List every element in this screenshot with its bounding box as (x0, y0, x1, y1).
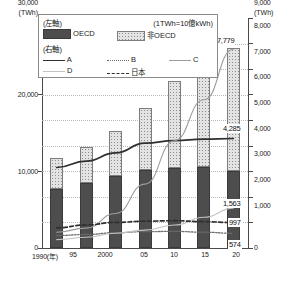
legend-item-c: C (169, 55, 199, 64)
chart-container: (TWh) (TWh) 30,000 20,000 10,000 0 9,000… (0, 0, 290, 281)
right-axis-unit: (TWh) (254, 9, 273, 16)
line-a-swatch-icon (43, 57, 65, 63)
x-axis-line (42, 248, 249, 249)
left-axis-tick (38, 248, 42, 249)
right-axis-tick (249, 43, 253, 44)
right-axis-tick (249, 171, 253, 172)
right-tick-label: 9,000 (254, 0, 271, 6)
x-tick-label: 10 (159, 251, 189, 258)
right-tick-label: 3,000 (254, 150, 271, 157)
right-axis-tick (249, 18, 253, 19)
legend-label-oecd: OECD (73, 29, 95, 38)
non-oecd-swatch-icon (117, 31, 145, 41)
right-tick-label: 6,000 (254, 73, 271, 80)
x-tick-label: 05 (129, 251, 159, 258)
legend-item-non-oecd: 非OECD (117, 29, 176, 41)
legend-label-c: C (193, 55, 198, 64)
data-label-d: 1,563 (222, 199, 241, 208)
legend-label-b: B (131, 55, 136, 64)
right-axis-line (248, 18, 249, 249)
line-japan-swatch-icon (107, 70, 129, 76)
right-tick-label: 8,000 (254, 22, 271, 29)
left-axis-unit: (TWh) (0, 9, 38, 16)
legend-item-d: D (43, 66, 73, 75)
legend-item-japan: 日本 (107, 66, 145, 77)
right-tick-label: 5,000 (254, 99, 271, 106)
left-tick-label: 0 (0, 244, 38, 251)
legend-item-oecd: OECD (43, 29, 95, 39)
right-tick-label: 4,000 (254, 125, 271, 132)
line-d-swatch-icon (43, 68, 65, 74)
data-label-c: 7,779 (216, 36, 235, 45)
right-tick-label: 1,000 (254, 202, 271, 209)
legend-unit-note: (1TWh=10億kWh) (153, 17, 213, 28)
x-tick-label: 95 (58, 251, 88, 258)
line-series-a (57, 139, 234, 168)
right-axis-tick (249, 222, 253, 223)
line-series-japan (57, 221, 234, 228)
oecd-swatch-icon (43, 29, 71, 39)
right-tick-label: 2,000 (254, 176, 271, 183)
line-c-swatch-icon (169, 57, 191, 63)
left-tick-label: 20,000 (0, 91, 38, 98)
right-tick-label: 0 (254, 244, 258, 251)
data-label-jp: 997 (228, 218, 242, 227)
legend-right-axis-header: (右軸) (43, 43, 62, 54)
line-series-b (57, 231, 234, 235)
left-tick-label: 30,000 (0, 0, 38, 6)
legend-label-japan: 日本 (131, 68, 145, 77)
data-label-b: 574 (228, 240, 242, 249)
right-axis-tick (249, 146, 253, 147)
right-axis-tick (249, 120, 253, 121)
x-tick-label: 20 (221, 251, 251, 258)
legend-left-axis-header: (左軸) (43, 17, 62, 28)
right-axis-tick (249, 69, 253, 70)
data-label-a: 4,285 (222, 124, 241, 133)
legend-label-non-oecd: 非OECD (147, 31, 176, 40)
line-b-swatch-icon (107, 57, 129, 63)
legend-label-d: D (67, 66, 72, 75)
left-tick-label: 10,000 (0, 168, 38, 175)
right-axis-tick (249, 197, 253, 198)
x-tick-label: 2000 (87, 251, 123, 258)
right-axis-tick (249, 94, 253, 95)
right-tick-label: 7,000 (254, 48, 271, 55)
legend-item-a: A (43, 55, 72, 64)
right-axis-tick (249, 248, 253, 249)
chart-legend: (左軸) (1TWh=10億kWh) OECD 非OECD (右軸) A B C… (38, 14, 218, 78)
legend-item-b: B (107, 55, 136, 64)
legend-label-a: A (67, 55, 72, 64)
x-tick-label: 15 (190, 251, 220, 258)
